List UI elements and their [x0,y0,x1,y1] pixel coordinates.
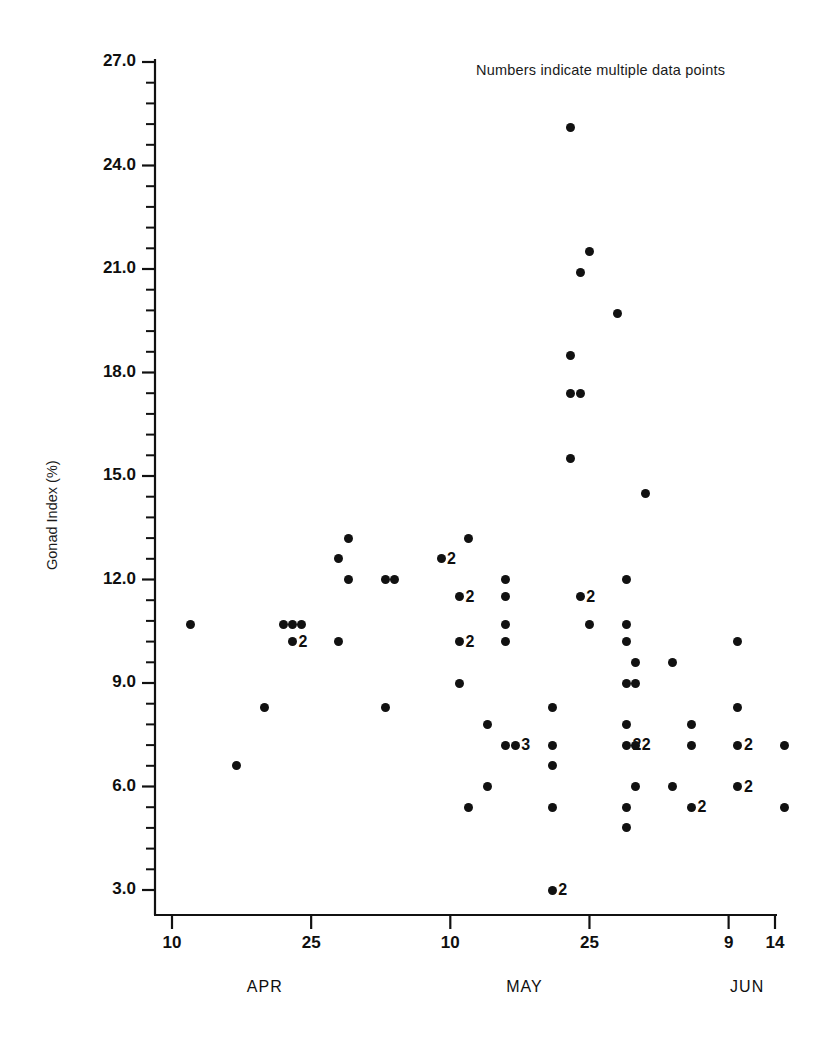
multi-point-count-label: 2 [466,634,475,650]
y-tick-label: 3.0 [60,879,136,899]
scatter-point [548,741,557,750]
scatter-point [483,720,492,729]
scatter-point [631,741,640,750]
scatter-point [585,620,594,629]
scatter-point [733,741,742,750]
scatter-point [622,620,631,629]
scatter-point [279,620,288,629]
scatter-point [455,592,464,601]
scatter-point [548,703,557,712]
scatter-point [501,620,510,629]
scatter-point [687,803,696,812]
x-tick-label: 10 [142,933,202,953]
scatter-point [232,761,241,770]
scatter-point [733,703,742,712]
y-tick-label: 21.0 [60,258,136,278]
scatter-point [687,720,696,729]
scatter-point [566,123,575,132]
scatter-point [585,247,594,256]
scatter-point [501,592,510,601]
scatter-point [464,803,473,812]
scatter-point [344,534,353,543]
y-tick-label: 12.0 [60,569,136,589]
y-tick-label: 27.0 [60,51,136,71]
chart-annotation-note: Numbers indicate multiple data points [476,62,725,78]
scatter-point [186,620,195,629]
scatter-point [566,389,575,398]
scatter-point [631,782,640,791]
scatter-point [566,351,575,360]
scatter-point [501,741,510,750]
multi-point-count-label: 2 [698,799,707,815]
scatter-point [622,720,631,729]
x-tick-label: 25 [281,933,341,953]
scatter-point [566,454,575,463]
scatter-point [780,803,789,812]
multi-point-count-label: 2 [642,737,651,753]
scatter-point [622,679,631,688]
scatter-point [511,741,520,750]
scatter-point [668,658,677,667]
scatter-point [483,782,492,791]
scatter-point [390,575,399,584]
scatter-point [548,886,557,895]
scatter-point [344,575,353,584]
scatter-point [381,575,390,584]
scatter-point [641,489,650,498]
scatter-point [437,554,446,563]
scatter-point [733,637,742,646]
y-tick-label: 6.0 [60,776,136,796]
gonad-index-scatter-figure: Numbers indicate multiple data points Go… [0,0,829,1037]
multi-point-count-label: 2 [447,551,456,567]
multi-point-count-label: 2 [586,589,595,605]
x-tick-label: 25 [559,933,619,953]
scatter-point [668,782,677,791]
scatter-point [687,741,696,750]
scatter-point [260,703,269,712]
multi-point-count-label: 2 [466,589,475,605]
scatter-point [381,703,390,712]
scatter-point [548,803,557,812]
scatter-point [576,268,585,277]
scatter-point [455,637,464,646]
month-label: MAY [485,978,565,996]
scatter-point [464,534,473,543]
y-tick-label: 9.0 [60,672,136,692]
y-tick-label: 15.0 [60,465,136,485]
scatter-point [288,620,297,629]
scatter-point [334,554,343,563]
y-tick-label: 24.0 [60,155,136,175]
multi-point-count-label: 2 [558,882,567,898]
scatter-point [548,761,557,770]
y-tick-label: 18.0 [60,362,136,382]
y-axis-title: Gonad Index (%) [44,460,60,570]
x-tick-label: 14 [745,933,805,953]
multi-point-count-label: 3 [521,737,530,753]
scatter-point [622,637,631,646]
month-label: APR [225,978,305,996]
scatter-point [288,637,297,646]
scatter-point [631,658,640,667]
scatter-point [501,637,510,646]
scatter-point [622,741,631,750]
scatter-point [501,575,510,584]
scatter-point [780,741,789,750]
scatter-point [622,823,631,832]
scatter-point [576,389,585,398]
x-tick-label: 10 [420,933,480,953]
multi-point-count-label: 2 [744,737,753,753]
scatter-point [622,575,631,584]
scatter-point [297,620,306,629]
month-label: JUN [707,978,787,996]
scatter-point [334,637,343,646]
scatter-point [576,592,585,601]
scatter-point [733,782,742,791]
scatter-point [631,679,640,688]
scatter-point [613,309,622,318]
multi-point-count-label: 2 [744,779,753,795]
scatter-point [622,803,631,812]
scatter-point [455,679,464,688]
multi-point-count-label: 2 [299,634,308,650]
